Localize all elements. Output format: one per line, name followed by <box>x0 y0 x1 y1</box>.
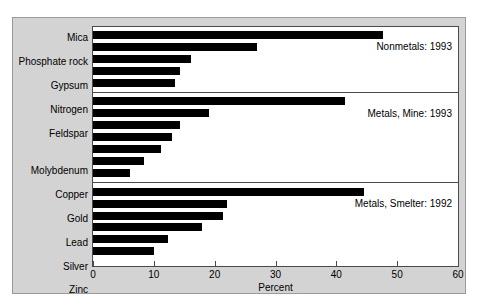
bar: Pig iron <box>93 247 154 255</box>
x-axis-tick-label: 40 <box>331 269 342 280</box>
plot-area: MicaPhosphate rockGypsumNitrogenFeldspar… <box>92 26 459 267</box>
group-annotation: Nonmetals: 1993 <box>376 41 452 52</box>
bar: Mica <box>93 31 383 39</box>
category-label: Zinc <box>69 285 88 295</box>
bar: Iron ore <box>93 169 130 177</box>
bar: Lead <box>93 200 227 208</box>
group-annotation: Metals, Smelter: 1992 <box>355 198 452 209</box>
bar: Phosphate rock <box>93 43 257 51</box>
bar: Molybdenum <box>93 97 345 105</box>
x-axis-tick-label: 20 <box>209 269 220 280</box>
bar: Silver <box>93 145 161 153</box>
group-annotation: Metals, Mine: 1993 <box>368 108 453 119</box>
category-label: Feldspar <box>49 129 88 139</box>
x-axis-tick <box>276 261 277 266</box>
x-axis-tick <box>154 261 155 266</box>
chart-figure: MicaPhosphate rockGypsumNitrogenFeldspar… <box>12 17 466 294</box>
bar: Nitrogen <box>93 67 180 75</box>
x-axis-tick-label: 60 <box>452 269 463 280</box>
bar: Raw steel <box>93 235 168 243</box>
bar: Copper <box>93 223 202 231</box>
group-divider <box>93 92 458 93</box>
x-axis-tick-label: 50 <box>392 269 403 280</box>
x-axis-tick-label: 0 <box>90 269 96 280</box>
category-label: Mica <box>67 33 88 43</box>
bar: Aluminium <box>93 212 223 220</box>
x-axis-tick <box>93 261 94 266</box>
x-axis-tick-label: 10 <box>148 269 159 280</box>
bar: Gold <box>93 121 180 129</box>
bar: Copper <box>93 109 209 117</box>
category-label: Gypsum <box>51 81 88 91</box>
x-axis-tick <box>397 261 398 266</box>
category-label: Gold <box>67 214 88 224</box>
group-divider <box>93 182 458 183</box>
category-label: Copper <box>55 190 88 200</box>
category-label: Phosphate rock <box>19 57 89 67</box>
category-label: Lead <box>66 238 88 248</box>
bar: Gypsum <box>93 55 191 63</box>
x-axis-tick <box>215 261 216 266</box>
category-label: Nitrogen <box>50 105 88 115</box>
x-axis-title: Percent <box>258 282 292 293</box>
bar: Lead <box>93 133 172 141</box>
bar: Feldspar <box>93 79 175 87</box>
bar: Magnesium <box>93 188 364 196</box>
x-axis-tick <box>458 261 459 266</box>
bar: Zinc <box>93 157 144 165</box>
category-label: Silver <box>63 262 88 272</box>
x-axis-tick-label: 30 <box>270 269 281 280</box>
category-label: Molybdenum <box>31 166 88 176</box>
x-axis-tick <box>336 261 337 266</box>
